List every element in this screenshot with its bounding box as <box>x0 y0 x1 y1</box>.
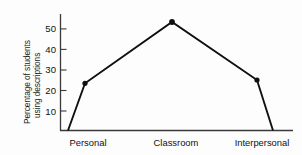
line-chart: Percentage of students using description… <box>0 0 302 155</box>
x-tick-label-classroom: Classroom <box>154 137 199 148</box>
y-tick-label-10: 10 <box>45 106 56 117</box>
data-point-classroom <box>169 19 175 25</box>
data-point-personal <box>82 81 87 86</box>
data-point-interpersonal <box>254 77 259 82</box>
y-tick-labels: 10 20 30 40 50 <box>45 23 56 116</box>
x-tick-labels: Personal Classroom Interpersonal <box>69 137 289 148</box>
data-line-series-1 <box>68 22 273 131</box>
y-tick-label-30: 30 <box>45 64 56 75</box>
y-tick-label-20: 20 <box>45 85 56 96</box>
x-tick-label-interpersonal: Interpersonal <box>235 137 290 148</box>
y-axis-label-line1: Percentage of students <box>22 40 32 124</box>
x-tick-label-personal: Personal <box>69 137 106 148</box>
chart-figure: Percentage of students using description… <box>0 0 302 155</box>
data-point-markers <box>82 19 259 86</box>
y-axis-label: Percentage of students using description… <box>22 40 42 124</box>
y-tick-label-50: 50 <box>45 23 56 34</box>
y-tick-label-40: 40 <box>45 44 56 55</box>
y-axis-label-line2: using descriptions <box>32 53 42 118</box>
